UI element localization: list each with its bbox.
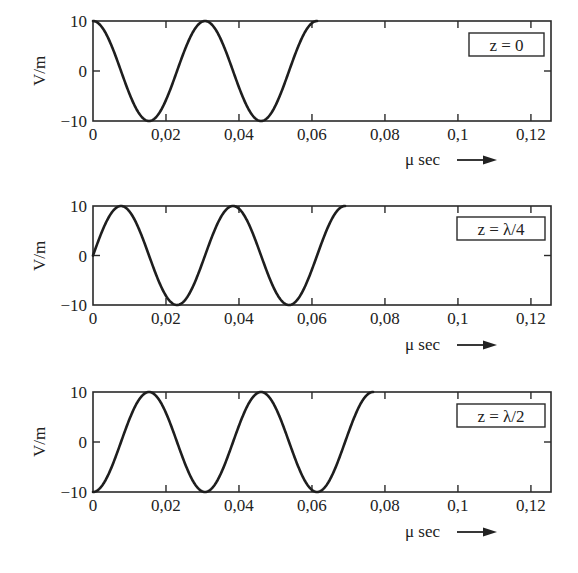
chart-panel-2: 00,020,040,060,080,10,12−10010V/mμ secz … [30,197,551,354]
y-axis-title: V/m [30,56,49,86]
y-axis-title: V/m [30,241,49,271]
chart-panels: 00,020,040,060,080,10,12−10010V/mμ secz … [30,12,551,541]
chart-panel-3: 00,020,040,060,080,10,12−10010V/mμ secz … [30,383,551,541]
x-tick-label: 0,12 [516,496,546,515]
waveform-line-1 [93,21,317,121]
x-tick-label: 0,06 [297,496,327,515]
y-tick-label: 0 [79,433,88,452]
x-tick-label: 0,1 [447,309,468,328]
y-tick-label: −10 [60,112,87,131]
figure: 00,020,040,060,080,10,12−10010V/mμ secz … [0,0,578,573]
x-tick-label: 0,1 [447,125,468,144]
y-tick-label: 10 [70,383,87,402]
chart-panel-1: 00,020,040,060,080,10,12−10010V/mμ secz … [30,12,551,169]
x-tick-label: 0,02 [151,496,181,515]
legend-box: z = λ/2 [457,404,545,427]
x-tick-label: 0,06 [297,125,327,144]
arrow-right-icon [457,156,497,165]
y-tick-label: 0 [79,247,88,266]
x-tick-label: 0,04 [224,309,254,328]
arrow-right-icon [457,528,497,537]
x-tick-label: 0 [89,496,98,515]
x-tick-label: 0,02 [151,309,181,328]
x-tick-label: 0 [89,309,98,328]
x-tick-label: 0,04 [224,125,254,144]
x-tick-label: 0,02 [151,125,181,144]
x-tick-label: 0,12 [516,125,546,144]
legend-label: z = 0 [489,36,523,55]
x-axis-title: μ sec [405,522,441,541]
x-tick-label: 0,12 [516,309,546,328]
y-tick-label: 10 [70,12,87,31]
x-tick-label: 0,06 [297,309,327,328]
arrow-right-icon [457,341,497,350]
y-axis-title: V/m [30,427,49,457]
y-tick-label: 10 [70,197,87,216]
x-tick-label: 0,08 [370,309,400,328]
x-tick-label: 0,1 [447,496,468,515]
waveform-line-1 [93,392,373,492]
x-tick-label: 0 [89,125,98,144]
legend-box: z = 0 [469,33,544,56]
y-tick-label: −10 [60,296,87,315]
y-tick-label: 0 [79,62,88,81]
x-tick-label: 0,08 [370,496,400,515]
waveform-line-1 [93,206,345,305]
y-tick-label: −10 [60,483,87,502]
legend-label: z = λ/2 [477,407,524,426]
x-axis-title: μ sec [405,150,441,169]
legend-label: z = λ/4 [477,220,525,239]
legend-box: z = λ/4 [457,217,545,240]
x-tick-label: 0,04 [224,496,254,515]
x-tick-label: 0,08 [370,125,400,144]
x-axis-title: μ sec [405,335,441,354]
